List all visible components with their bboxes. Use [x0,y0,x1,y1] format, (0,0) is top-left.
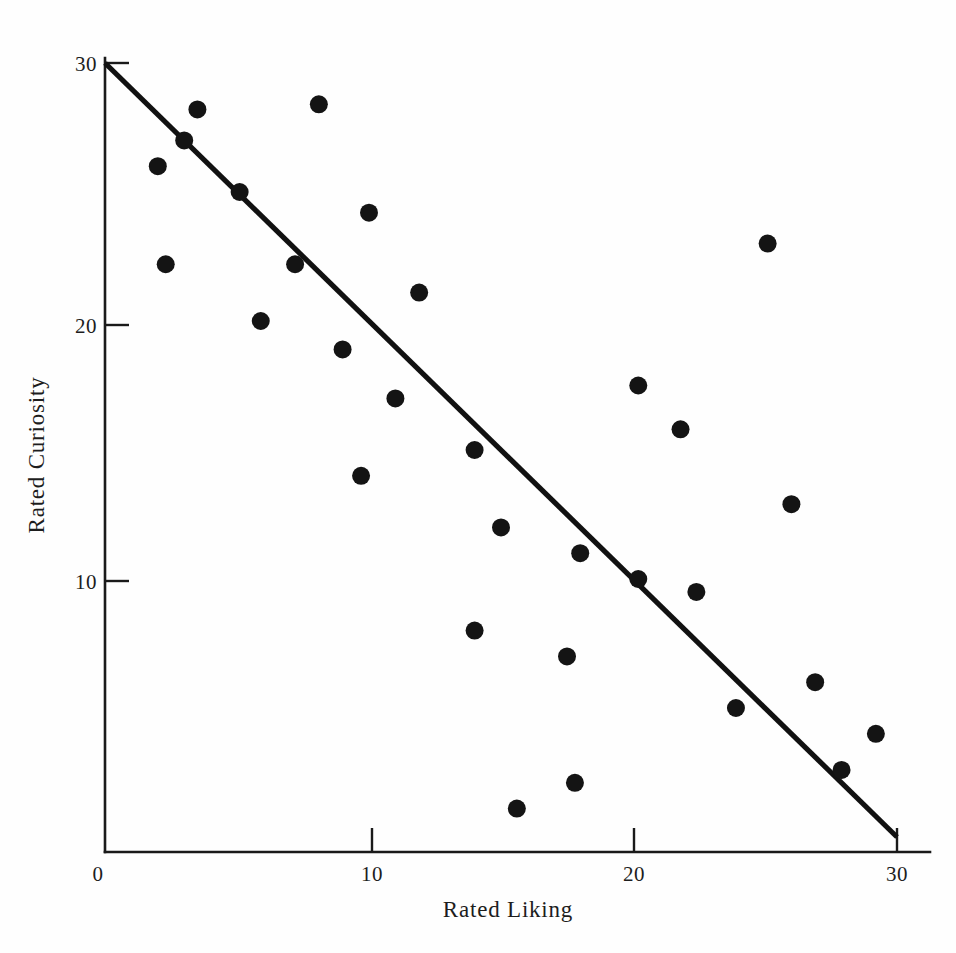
scatter-figure: 30 20 10 0 10 20 30 Rated Liking Rated C… [0,0,956,953]
x-tick-label-0: 0 [93,862,104,886]
scatter-points-group [149,95,885,817]
data-point [352,467,370,485]
data-point [782,495,800,513]
y-tick-label-20: 20 [75,314,97,338]
x-tick-label-10: 10 [361,862,383,886]
data-point [252,312,270,330]
data-point [687,583,705,601]
y-tick-marks [105,63,129,581]
data-point [672,420,690,438]
data-point [157,255,175,273]
data-point [629,570,647,588]
data-point [231,183,249,201]
y-tick-labels: 30 20 10 [75,52,97,594]
x-axis-title: Rated Liking [443,897,573,922]
reference-line [105,63,897,837]
data-point [727,699,745,717]
y-tick-label-10: 10 [75,570,97,594]
data-point [286,255,304,273]
data-point [466,622,484,640]
data-point [175,131,193,149]
data-point [334,340,352,358]
data-point [360,204,378,222]
data-point [149,157,167,175]
data-point [558,647,576,665]
data-point [410,284,428,302]
reference-line-segment [105,63,897,837]
data-point [806,673,824,691]
data-point [466,441,484,459]
data-point [188,100,206,118]
data-point [508,800,526,818]
axis-group [105,58,930,852]
x-tick-marks [372,828,897,852]
data-point [629,377,647,395]
data-point [386,389,404,407]
data-point [571,544,589,562]
x-tick-label-20: 20 [623,862,645,886]
y-axis-title: Rated Curiosity [24,376,49,533]
data-point [566,774,584,792]
data-point [492,518,510,536]
data-point [833,761,851,779]
x-tick-label-30: 30 [886,862,908,886]
data-point [310,95,328,113]
plot-canvas: 30 20 10 0 10 20 30 Rated Liking Rated C… [0,0,956,953]
data-point [867,725,885,743]
data-point [759,235,777,253]
x-tick-labels: 0 10 20 30 [93,862,909,886]
y-tick-label-30: 30 [75,52,97,76]
